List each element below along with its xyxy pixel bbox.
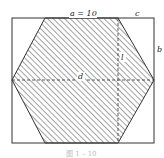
label-d: d [78, 72, 83, 81]
figure-caption: 图 1 – 10 [66, 150, 97, 158]
label-l: l [121, 53, 124, 62]
label-c: c [135, 9, 140, 18]
hexagon-in-rectangle-diagram: a = 10 c b d l 图 1 – 10 [0, 0, 164, 158]
label-b: b [157, 45, 162, 54]
label-a: a = 10 [70, 9, 97, 18]
